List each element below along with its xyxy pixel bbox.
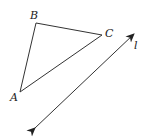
- vertex-label-b: B: [29, 9, 38, 22]
- line-l: [35, 34, 134, 128]
- line-label-l: l: [134, 39, 138, 52]
- vertex-label-a: A: [9, 91, 18, 104]
- geometry-figure: A B C l: [0, 0, 145, 138]
- triangle-abc: [20, 23, 102, 92]
- vertex-label-c: C: [105, 27, 114, 40]
